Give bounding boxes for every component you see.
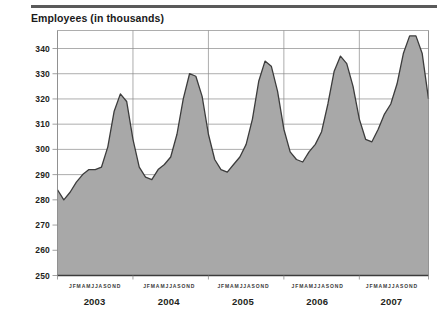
y-axis-label-250: 250 (24, 271, 50, 281)
x-axis-year-label-2007: 2007 (354, 296, 428, 307)
x-axis-year-label-2003: 2003 (58, 296, 132, 307)
chart-page: Employees (in thousands) 250260270280290… (0, 0, 441, 331)
y-axis-label-300: 300 (24, 144, 50, 154)
area-chart-svg (0, 0, 441, 331)
y-axis-label-340: 340 (24, 44, 50, 54)
y-axis-label-330: 330 (24, 69, 50, 79)
y-axis-label-320: 320 (24, 94, 50, 104)
y-axis-label-270: 270 (24, 220, 50, 230)
y-axis-label-310: 310 (24, 119, 50, 129)
month-letters-2007: JFMAMJJASOND (355, 283, 428, 289)
y-axis-label-280: 280 (24, 195, 50, 205)
y-axis-label-290: 290 (24, 170, 50, 180)
plot-area: 250260270280290300310320330340 JFMAMJJAS… (0, 0, 441, 331)
month-letters-2004: JFMAMJJASOND (133, 283, 206, 289)
month-letters-2003: JFMAMJJASOND (59, 283, 132, 289)
y-axis-label-260: 260 (24, 245, 50, 255)
employees-area-fill (58, 36, 429, 276)
x-axis-year-label-2004: 2004 (132, 296, 206, 307)
month-letters-2005: JFMAMJJASOND (207, 283, 280, 289)
x-axis-year-label-2006: 2006 (280, 296, 354, 307)
month-letters-2006: JFMAMJJASOND (281, 283, 354, 289)
y-tick-marks (53, 49, 58, 276)
x-axis-year-label-2005: 2005 (206, 296, 280, 307)
